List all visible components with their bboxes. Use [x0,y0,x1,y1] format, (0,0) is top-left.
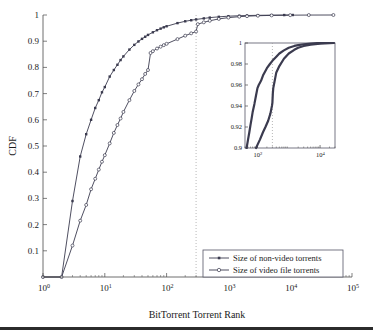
legend-label-1: Size of video file torrents [233,265,319,275]
inset-y-tick-label: 1 [239,39,242,46]
inset-y-tick-label: 0.98 [231,60,242,67]
series-marker-0 [165,25,167,27]
series-marker-1 [97,168,100,171]
x-tick-label: 105 [347,283,359,294]
series-marker-1 [146,69,149,72]
series-marker-1 [217,17,220,20]
series-marker-1 [103,154,106,157]
series-marker-0 [203,17,205,19]
series-marker-0 [195,18,197,20]
y-tick-label: 1 [35,10,40,20]
x-tick-label: 101 [100,283,112,294]
series-marker-0 [90,119,92,121]
y-tick-label: 0.8 [28,62,40,72]
series-marker-1 [208,19,211,22]
legend-label-0: Size of non-video torrents [233,253,322,263]
series-marker-1 [227,16,230,19]
series-marker-1 [307,14,310,17]
series-marker-1 [94,177,97,180]
series-marker-0 [152,31,154,33]
series-marker-0 [144,36,146,38]
y-axis-title: CDF [7,136,18,156]
series-marker-0 [159,27,161,29]
series-marker-1 [151,50,154,53]
y-tick-label: 0.1 [28,246,39,256]
series-marker-1 [100,160,103,163]
series-marker-1 [289,14,292,17]
series-marker-1 [122,110,125,113]
y-tick-label: 0.9 [28,36,40,46]
inset-y-tick-label: 0.92 [231,123,242,130]
series-marker-0 [156,29,158,31]
series-marker-0 [104,86,106,88]
series-marker-1 [238,15,241,18]
series-marker-1 [165,42,168,45]
series-marker-1 [141,78,144,81]
y-tick-label: 0.2 [28,220,39,230]
series-marker-1 [202,21,205,24]
inset-y-tick-label: 0.9 [234,144,242,151]
series-marker-0 [85,133,87,135]
y-tick-label: 0.6 [28,115,40,125]
series-marker-0 [209,16,211,18]
inset-panel [245,43,335,148]
series-marker-0 [113,69,115,71]
series-marker-0 [283,14,285,16]
series-marker-1 [246,15,249,18]
series-marker-0 [190,19,192,21]
series-marker-0 [184,20,186,22]
series-marker-1 [159,45,162,48]
series-marker-0 [141,38,143,40]
series-marker-1 [128,99,131,102]
x-tick-label: 102 [162,283,174,294]
series-marker-1 [119,117,122,120]
footer-divider [0,327,373,330]
x-axis-title: BitTorrent Torrent Rank [149,309,246,320]
y-tick-label: 0.3 [28,193,40,203]
series-marker-1 [184,34,187,37]
series-marker-1 [195,30,198,33]
series-marker-1 [133,89,136,92]
series-marker-1 [108,142,111,145]
series-marker-0 [98,99,100,101]
y-tick-label: 0.5 [28,141,40,151]
series-marker-0 [116,64,118,66]
x-tick-label: 100 [38,283,50,294]
series-marker-0 [108,75,110,77]
inset-y-tick-label: 0.94 [231,102,243,109]
y-tick-label: 0.7 [28,89,40,99]
series-marker-1 [71,244,74,247]
series-marker-0 [122,55,124,57]
series-marker-1 [256,14,259,17]
series-marker-0 [71,200,73,202]
series-marker-1 [137,83,140,86]
series-marker-0 [137,40,139,42]
series-marker-1 [85,203,88,206]
inset-y-tick-label: 0.96 [231,81,243,88]
series-marker-0 [128,48,130,50]
y-tick-label: 0.4 [28,167,40,177]
series-marker-1 [79,219,82,222]
series-marker-1 [332,14,335,17]
series-marker-0 [79,155,81,157]
series-marker-0 [163,26,165,28]
series-marker-1 [176,38,179,41]
series-marker-0 [176,22,178,24]
series-marker-0 [94,107,96,109]
legend-marker-1 [217,268,220,271]
series-marker-0 [101,91,103,93]
series-marker-1 [116,124,119,127]
x-tick-label: 103 [223,283,235,294]
legend-marker-0 [218,257,221,260]
figure-container: 1001011021031041050.10.20.30.40.50.60.70… [0,0,373,331]
series-marker-1 [90,188,93,191]
series-marker-1 [112,131,115,134]
series-marker-1 [156,47,159,50]
series-marker-0 [119,59,121,61]
x-tick-label: 104 [285,283,297,294]
series-marker-0 [147,34,149,36]
cdf-chart: 1001011021031041050.10.20.30.40.50.60.70… [0,0,373,331]
series-marker-1 [196,23,199,26]
series-marker-1 [270,14,273,17]
series-marker-0 [133,44,135,46]
